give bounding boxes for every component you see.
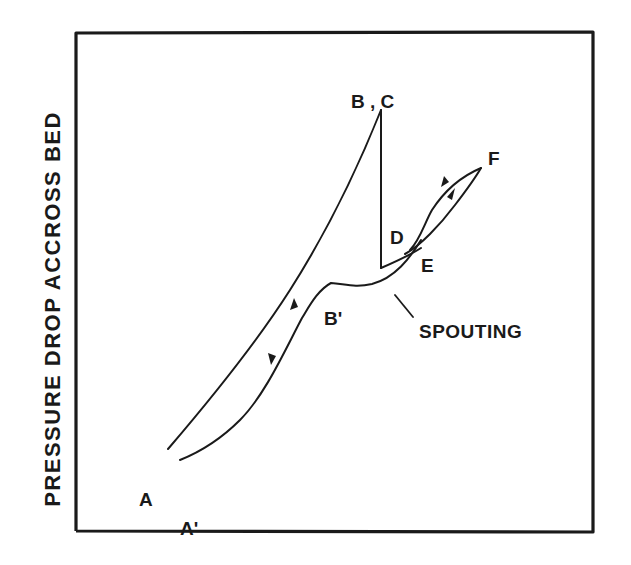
label-a-prime: A': [180, 518, 198, 539]
curve-a-to-bc: [168, 110, 381, 449]
label-d: D: [390, 227, 404, 248]
spouting-annotation: SPOUTING: [419, 321, 522, 342]
label-f: F: [488, 148, 500, 169]
spouting-leader-line: [395, 295, 413, 317]
arrow-up-on-a-curve: [290, 298, 298, 310]
label-a: A: [139, 489, 153, 510]
pressure-drop-diagram: PRESSURE DROP ACCROSS BED B , C D E F B'…: [0, 0, 631, 565]
label-e: E: [421, 255, 434, 276]
arrow-down-on-ef-upper: [441, 176, 449, 187]
label-bc: B , C: [351, 91, 395, 112]
label-b-prime: B': [324, 308, 342, 329]
y-axis-label: PRESSURE DROP ACCROSS BED: [40, 111, 65, 507]
plot-frame: [76, 32, 593, 532]
arrow-down-on-aprime-curve: [268, 353, 276, 365]
